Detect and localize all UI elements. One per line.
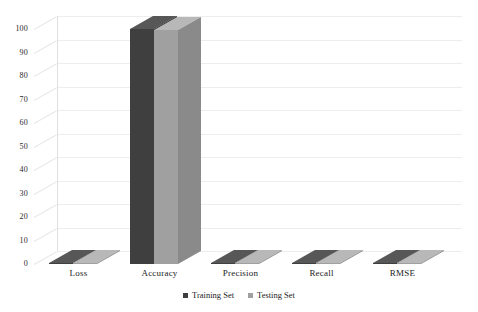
- gridline-slant: [34, 16, 57, 30]
- bar-front-face: [235, 263, 259, 264]
- legend-swatch-icon: [183, 293, 188, 298]
- x-axis-category-label: Accuracy: [115, 268, 205, 278]
- gridline: [57, 16, 462, 17]
- x-axis-category-label: Precision: [196, 268, 286, 278]
- y-axis-tick-label: 70: [2, 96, 28, 104]
- bar-front-face: [211, 263, 235, 264]
- bar-front-face: [316, 263, 340, 264]
- y-axis-tick-label: 20: [2, 213, 28, 221]
- y-axis-tick-label: 50: [2, 143, 28, 151]
- x-axis-category-label: Loss: [34, 268, 124, 278]
- y-axis-tick-label: 90: [2, 49, 28, 57]
- y-axis-tick-label: 30: [2, 190, 28, 198]
- y-axis-tick-label: 60: [2, 119, 28, 127]
- bar-front-face: [154, 30, 178, 264]
- y-axis-tick-label: 40: [2, 166, 28, 174]
- y-axis-tick-label: 0: [2, 260, 28, 268]
- bar-top-face: [397, 250, 444, 263]
- bar-side-face: [178, 17, 201, 264]
- bar-front-face: [292, 263, 316, 264]
- bar-top-face: [73, 250, 120, 263]
- chart-container: 1009080706050403020100LossAccuracyPrecis…: [0, 0, 478, 312]
- bar-front-face: [130, 29, 154, 264]
- bar-front-face: [397, 263, 421, 264]
- legend-item[interactable]: Training Set: [183, 290, 234, 300]
- chart-legend: Training SetTesting Set: [0, 290, 478, 300]
- bar-front-face: [373, 263, 397, 264]
- bar-top-face: [316, 250, 363, 263]
- legend-label: Training Set: [192, 290, 234, 300]
- x-axis-category-label: Recall: [277, 268, 367, 278]
- legend-label: Testing Set: [257, 290, 295, 300]
- gridline: [57, 40, 462, 41]
- y-axis-tick-label: 10: [2, 237, 28, 245]
- legend-swatch-icon: [248, 293, 253, 298]
- plot-area: 1009080706050403020100LossAccuracyPrecis…: [0, 0, 478, 312]
- y-axis-tick-label: 80: [2, 72, 28, 80]
- bar-top-face: [235, 250, 282, 263]
- legend-item[interactable]: Testing Set: [248, 290, 295, 300]
- x-axis-category-label: RMSE: [358, 268, 448, 278]
- y-axis-tick-label: 100: [2, 25, 28, 33]
- bar-front-face: [73, 263, 97, 264]
- bar-front-face: [49, 263, 73, 264]
